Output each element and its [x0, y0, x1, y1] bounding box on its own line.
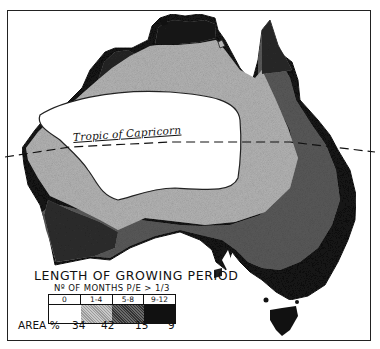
area-label: AREA % [18, 319, 60, 331]
legend-header-0: 0 [49, 295, 80, 304]
area-value-0: 34 [72, 319, 85, 331]
area-value-5-8: 15 [135, 319, 148, 331]
legend-header-5-8: 5-8 [112, 295, 144, 304]
legend-title: LENGTH OF GROWING PERIOD [34, 268, 238, 283]
area-value-9-12: 9 [168, 319, 175, 331]
legend-header-1-4: 1-4 [80, 295, 112, 304]
legend-subtitle: Nº OF MONTHS P/E > 1/3 [54, 283, 170, 293]
tasmania [270, 306, 298, 336]
area-value-1-4: 42 [101, 319, 114, 331]
legend-header-9-12: 9-12 [143, 295, 175, 304]
zone-9-12-capeyork [262, 20, 292, 74]
legend-headers: 0 1-4 5-8 9-12 [49, 295, 175, 305]
